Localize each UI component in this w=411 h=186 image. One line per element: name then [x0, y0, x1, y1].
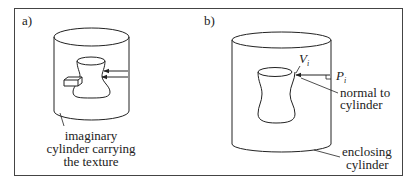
svg-text:cylinder: cylinder: [346, 157, 389, 172]
panel-b-label: b): [204, 13, 215, 28]
figure: a) imaginary cylinder carrying: [0, 0, 411, 186]
projector-box: [64, 77, 82, 86]
normal-leader: [301, 78, 338, 93]
annotation-enclosing: enclosing cylinder: [342, 144, 392, 172]
panel-a-label: a): [22, 13, 32, 28]
annotation-normal: normal to cylinder: [340, 85, 390, 112]
right-angle-mark: [326, 75, 331, 79]
point-label: Pi: [335, 68, 346, 85]
panel-a: a) imaginary cylinder carrying: [22, 13, 136, 169]
imaginary-cylinder: [54, 28, 129, 120]
svg-text:the texture: the texture: [63, 154, 118, 169]
object-shape-b: [258, 68, 295, 124]
svg-text:cylinder: cylinder: [340, 97, 383, 112]
leader-line-a: [60, 113, 64, 126]
enclosing-leader: [314, 150, 340, 157]
vertex-label: Vi: [299, 51, 309, 68]
panel-b: b) Vi Pi normal to cylinder: [204, 13, 392, 172]
annotation-imaginary-cylinder: imaginary cylinder carrying the texture: [46, 128, 136, 169]
projection-arrows: [102, 71, 128, 77]
vertex-pointer: [296, 66, 300, 73]
enclosing-cylinder: [232, 32, 331, 152]
